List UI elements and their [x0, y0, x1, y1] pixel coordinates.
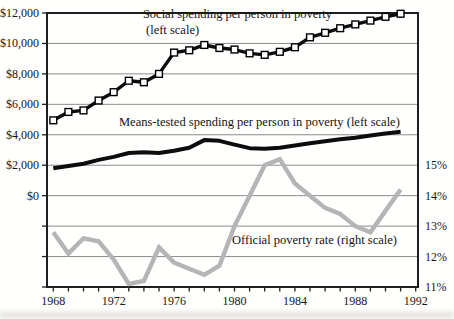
x-tick-label: 1972: [102, 294, 126, 308]
x-tick-label: 1984: [283, 294, 307, 308]
social-spending-marker: [216, 45, 223, 52]
y-left-tick-label: $6,000: [6, 97, 39, 111]
social-spending-marker: [80, 107, 87, 114]
social-spending-marker: [110, 89, 117, 96]
x-tick-label: 1988: [343, 294, 367, 308]
x-tick-label: 1992: [404, 294, 428, 308]
series-official-poverty-rate-line: [53, 159, 400, 284]
social-spending-marker: [352, 21, 359, 28]
chart: $12,000$10,000$8,000$6,000$4,000$2,000$0…: [0, 0, 454, 319]
social-spending-marker: [186, 47, 193, 54]
series-label-social-spending: Social spending per person in poverty: [120, 7, 355, 21]
social-spending-marker: [337, 25, 344, 32]
social-spending-marker: [65, 109, 72, 116]
social-spending-marker: [292, 44, 299, 51]
y-right-tick-label: 13%: [425, 219, 447, 233]
social-spending-marker: [261, 51, 268, 58]
social-spending-marker: [276, 48, 283, 55]
social-spending-marker: [307, 34, 314, 41]
social-spending-marker: [231, 46, 238, 53]
x-tick-label: 1976: [162, 294, 186, 308]
series-means-tested-spending-line: [53, 132, 400, 169]
social-spending-marker: [125, 77, 132, 84]
social-spending-marker: [171, 49, 178, 56]
social-spending-marker: [382, 13, 389, 20]
y-left-tick-label: $4,000: [6, 128, 39, 142]
social-spending-marker: [201, 42, 208, 49]
y-left-tick-label: $8,000: [6, 67, 39, 81]
y-left-tick-label: $12,000: [0, 6, 39, 20]
scan-shadow-strip: [0, 312, 454, 318]
social-spending-marker: [397, 10, 404, 17]
social-spending-marker: [156, 70, 163, 77]
y-right-tick-label: 12%: [425, 250, 447, 264]
series-label-official-poverty-rate: Official poverty rate (right scale): [232, 233, 397, 247]
series-label-means-tested-spending: Means-tested spending per person in pove…: [119, 115, 400, 129]
x-tick-label: 1980: [223, 294, 247, 308]
x-tick-label: 1968: [41, 294, 65, 308]
y-right-tick-label: 11%: [425, 280, 447, 294]
y-left-tick-label: $2,000: [6, 158, 39, 172]
y-left-tick-label: $10,000: [0, 36, 39, 50]
social-spending-marker: [141, 79, 148, 86]
social-spending-marker: [50, 117, 57, 124]
social-spending-marker: [367, 17, 374, 24]
y-right-tick-label: 14%: [425, 189, 447, 203]
social-spending-marker: [322, 29, 329, 36]
social-spending-marker: [95, 97, 102, 104]
social-spending-marker: [246, 50, 253, 57]
series-label-social-spending-scale: (left scale): [146, 23, 199, 37]
y-left-tick-label: $0: [27, 189, 39, 203]
y-right-tick-label: 15%: [425, 158, 447, 172]
chart-svg: $12,000$10,000$8,000$6,000$4,000$2,000$0…: [0, 0, 454, 319]
